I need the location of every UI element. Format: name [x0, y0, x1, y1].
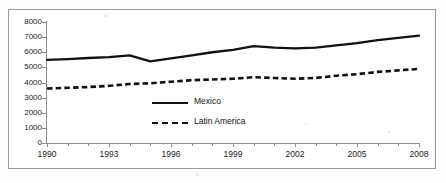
chart-figure: 010002000300040005000600070008000 199019…	[0, 0, 446, 183]
legend-swatch-dashed-icon	[152, 122, 188, 124]
data-series-group	[0, 0, 446, 183]
scan-speck	[196, 174, 199, 176]
line-series-latin-america	[47, 69, 419, 89]
chart-legend: Mexico Latin America	[152, 94, 282, 134]
scan-speck	[104, 15, 107, 17]
legend-item-mexico: Mexico	[152, 94, 282, 114]
line-series-mexico	[47, 36, 419, 62]
legend-label-mexico: Mexico	[194, 96, 221, 106]
legend-label-latin-america: Latin America	[194, 116, 246, 126]
legend-swatch-solid-icon	[152, 102, 188, 104]
scan-speck	[388, 131, 390, 133]
scan-speck	[305, 123, 307, 125]
legend-item-latin-america: Latin America	[152, 114, 282, 134]
plot-area: 010002000300040005000600070008000 199019…	[0, 0, 446, 183]
